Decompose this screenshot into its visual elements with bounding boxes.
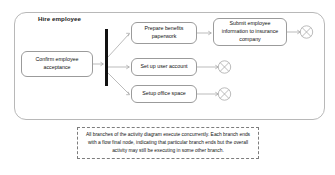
action-label: Confirm employee acceptance: [24, 56, 90, 72]
explanatory-note: All branches of the activity diagram exe…: [77, 127, 259, 159]
action-label: Prepare benefits paperwork: [134, 25, 194, 41]
action-label: Setup office space: [142, 90, 186, 98]
action-set-up-user-account[interactable]: Set up user account: [131, 58, 197, 76]
action-label: Set up user account: [140, 63, 187, 71]
activity-title: Hire employee: [38, 15, 81, 22]
diagram-canvas: Hire employee: [0, 0, 335, 175]
note-line-1: All branches of the activity diagram exe…: [86, 132, 238, 137]
action-submit-employee-information[interactable]: Submit employee information to insurance…: [213, 18, 287, 46]
fork-node: [105, 29, 108, 86]
action-prepare-benefits-paperwork[interactable]: Prepare benefits paperwork: [131, 22, 197, 44]
action-setup-office-space[interactable]: Setup office space: [131, 85, 197, 103]
action-confirm-employee-acceptance[interactable]: Confirm employee acceptance: [21, 51, 93, 77]
note-text: All branches of the activity diagram exe…: [83, 131, 253, 155]
action-label: Submit employee information to insurance…: [216, 20, 284, 44]
